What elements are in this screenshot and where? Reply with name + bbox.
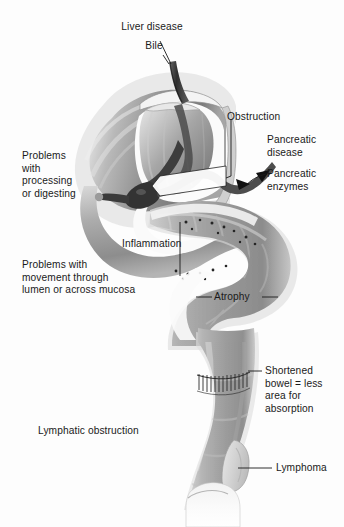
- label-problems-processing-line3: processing: [22, 175, 72, 186]
- label-shortened-bowel-line1: Shortened: [265, 365, 313, 376]
- label-liver-disease: Liver disease: [104, 21, 200, 34]
- label-atrophy: Atrophy: [214, 291, 250, 304]
- label-problems-processing-line4: or digesting: [22, 188, 76, 199]
- label-pancreatic-enzymes-line2: enzymes: [267, 181, 308, 192]
- label-problems-movement-line3: lumen or across mucosa: [22, 284, 135, 295]
- label-lymphoma: Lymphoma: [276, 462, 327, 475]
- label-problems-movement: Problems withmovement throughlumen or ac…: [22, 259, 135, 297]
- label-pancreatic-disease-line1: Pancreatic: [267, 134, 316, 145]
- label-pancreatic-disease-line2: disease: [267, 147, 303, 158]
- label-problems-processing-line2: with: [22, 163, 41, 174]
- label-lymphatic-obstruction: Lymphatic obstruction: [38, 425, 139, 438]
- label-problems-processing-line1: Problems: [22, 150, 66, 161]
- leader-bile: [163, 55, 169, 64]
- label-shortened-bowel-line4: absorption: [265, 403, 314, 414]
- label-obstruction: Obstruction: [227, 111, 280, 124]
- malabsorption-diagram: Liver disease Bile Obstruction Pancreati…: [0, 0, 344, 527]
- label-problems-movement-line2: movement through: [22, 272, 109, 283]
- label-pancreatic-enzymes: Pancreaticenzymes: [267, 168, 316, 193]
- label-pancreatic-enzymes-line1: Pancreatic: [267, 168, 316, 179]
- lower-bowel-tube: [184, 328, 259, 527]
- label-bile: Bile: [128, 40, 180, 53]
- label-problems-movement-line1: Problems with: [22, 259, 87, 270]
- label-problems-processing: Problemswithprocessingor digesting: [22, 150, 76, 200]
- label-pancreatic-disease: Pancreaticdisease: [267, 134, 316, 159]
- label-inflammation: Inflammation: [122, 238, 182, 251]
- label-shortened-bowel-line3: area for: [265, 390, 301, 401]
- label-shortened-bowel-line2: bowel = less: [265, 378, 323, 389]
- label-shortened-bowel: Shortenedbowel = lessarea forabsorption: [265, 365, 323, 415]
